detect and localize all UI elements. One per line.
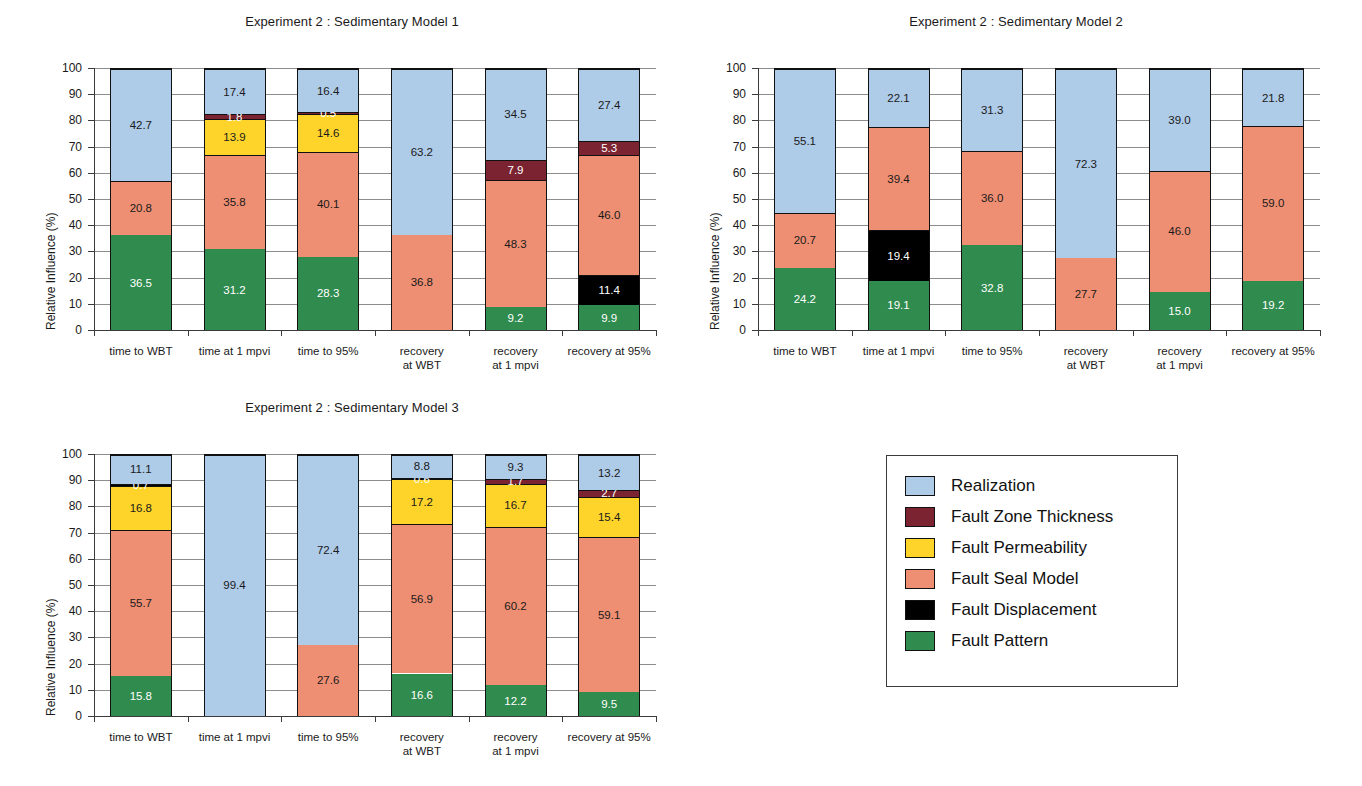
stacked-bar[interactable]: 31.235.813.91.817.4 (204, 68, 266, 330)
bar-segment[interactable]: 16.8 (111, 486, 171, 530)
bar-segment[interactable]: 42.7 (111, 69, 171, 181)
stacked-bar[interactable]: 19.119.439.422.1 (868, 68, 930, 330)
bar-segment[interactable]: 9.3 (486, 455, 546, 479)
bar-segment[interactable]: 28.3 (298, 257, 358, 331)
bar-segment[interactable]: 59.1 (579, 537, 639, 692)
stacked-bar[interactable]: 12.260.216.71.79.3 (485, 454, 547, 716)
stacked-bar[interactable]: 9.911.446.05.327.4 (578, 68, 640, 330)
bar-segment[interactable]: 11.4 (579, 275, 639, 305)
bar-segment[interactable]: 99.4 (205, 455, 265, 715)
bar-segment[interactable]: 22.1 (869, 69, 929, 127)
bar-segment[interactable]: 9.2 (486, 307, 546, 331)
bar-segment[interactable]: 55.7 (111, 530, 171, 676)
gridline (94, 533, 656, 534)
plot-area-model-2: Relative Influence (%)010203040506070809… (686, 14, 1346, 404)
stacked-bar[interactable]: 36.863.2 (391, 68, 453, 330)
chart-panel-model-2: Experiment 2 : Sedimentary Model 2 Relat… (686, 14, 1346, 404)
bar-segment[interactable]: 0.6 (392, 478, 452, 480)
bar-segment[interactable]: 35.8 (205, 155, 265, 249)
bar-segment[interactable]: 11.1 (111, 455, 171, 484)
bar-segment[interactable]: 48.3 (486, 180, 546, 307)
bar-segment[interactable]: 17.4 (205, 69, 265, 115)
bar-segment[interactable]: 39.4 (869, 127, 929, 230)
legend-item[interactable]: Fault Zone Thickness (905, 501, 1159, 532)
bar-segment[interactable]: 46.0 (1150, 171, 1210, 292)
bar-segment[interactable]: 9.9 (579, 305, 639, 331)
bar-segment[interactable]: 19.4 (869, 230, 929, 281)
bar-segment[interactable]: 15.8 (111, 676, 171, 717)
bar-segment[interactable]: 39.0 (1150, 69, 1210, 171)
bar-segment[interactable]: 15.4 (579, 497, 639, 537)
stacked-bar[interactable]: 24.220.755.1 (774, 68, 836, 330)
bar-segment[interactable]: 40.1 (298, 152, 358, 257)
bar-segment[interactable]: 1.7 (486, 479, 546, 483)
bar-segment[interactable]: 32.8 (962, 245, 1022, 331)
stacked-bar[interactable]: 27.772.3 (1055, 68, 1117, 330)
bar-segment[interactable]: 0.7 (111, 484, 171, 486)
bar-segment[interactable]: 21.8 (1243, 69, 1303, 126)
stacked-bar[interactable]: 28.340.114.60.516.4 (297, 68, 359, 330)
bar-segment[interactable]: 16.6 (392, 674, 452, 717)
bar-segment[interactable]: 34.5 (486, 69, 546, 159)
bar-segment[interactable]: 59.0 (1243, 126, 1303, 281)
legend-item[interactable]: Fault Pattern (905, 625, 1159, 656)
stacked-bar[interactable]: 16.656.917.20.68.8 (391, 454, 453, 716)
bar-segment[interactable]: 2.7 (579, 490, 639, 497)
bar-segment[interactable]: 1.8 (205, 114, 265, 119)
bar-segment[interactable]: 36.5 (111, 235, 171, 331)
bar-segment[interactable]: 31.3 (962, 69, 1022, 151)
bar-segment[interactable]: 12.2 (486, 685, 546, 717)
bar-segment[interactable]: 46.0 (579, 155, 639, 276)
bar-segment[interactable]: 56.9 (392, 524, 452, 673)
bar-segment[interactable]: 31.2 (205, 249, 265, 331)
bar-segment-value: 16.4 (317, 86, 339, 97)
bar-segment[interactable]: 7.9 (486, 160, 546, 181)
x-axis-label: recovery at 1 mpvi (463, 730, 569, 758)
bar-segment[interactable]: 5.3 (579, 141, 639, 155)
stacked-bar[interactable]: 32.836.031.3 (961, 68, 1023, 330)
legend-item[interactable]: Fault Displacement (905, 594, 1159, 625)
legend-item[interactable]: Fault Seal Model (905, 563, 1159, 594)
legend-item[interactable]: Realization (905, 470, 1159, 501)
bar-segment[interactable]: 17.2 (392, 479, 452, 524)
bar-segment[interactable]: 0.5 (298, 112, 358, 113)
stacked-bar[interactable]: 9.559.115.42.713.2 (578, 454, 640, 716)
stacked-bar[interactable]: 15.046.039.0 (1149, 68, 1211, 330)
legend-item-label: Fault Displacement (951, 600, 1097, 620)
bar-segment[interactable]: 16.7 (486, 484, 546, 528)
bar-segment-value: 19.2 (1262, 300, 1284, 311)
gridline (758, 120, 1320, 121)
bar-segment-value: 27.4 (598, 100, 620, 111)
bar-segment[interactable]: 15.0 (1150, 292, 1210, 331)
bar-segment[interactable]: 60.2 (486, 527, 546, 685)
stacked-bar[interactable]: 0.599.4 (204, 454, 266, 716)
bar-segment[interactable]: 8.8 (392, 455, 452, 478)
bar-segment[interactable]: 19.2 (1243, 281, 1303, 331)
bar-segment[interactable]: 72.3 (1056, 69, 1116, 258)
stacked-bar[interactable]: 19.259.021.8 (1242, 68, 1304, 330)
bar-segment[interactable]: 13.2 (579, 455, 639, 490)
bar-segment[interactable]: 14.6 (298, 114, 358, 152)
stacked-bar[interactable]: 36.520.842.7 (110, 68, 172, 330)
bar-segment[interactable]: 20.7 (775, 213, 835, 267)
bar-segment[interactable]: 27.4 (579, 69, 639, 141)
bar-segment[interactable]: 16.4 (298, 69, 358, 112)
bar-segment[interactable]: 27.7 (1056, 258, 1116, 331)
bar-segment-value: 15.4 (598, 512, 620, 523)
bar-segment[interactable]: 13.9 (205, 119, 265, 155)
bar-segment[interactable]: 19.1 (869, 281, 929, 331)
bar-segment[interactable]: 36.0 (962, 151, 1022, 245)
bar-segment[interactable]: 24.2 (775, 268, 835, 331)
stacked-bar[interactable]: 15.855.716.80.711.1 (110, 454, 172, 716)
chart-panel-model-1: Experiment 2 : Sedimentary Model 1 Relat… (22, 14, 682, 404)
bar-segment[interactable]: 72.4 (298, 455, 358, 645)
bar-segment[interactable]: 36.8 (392, 235, 452, 331)
bar-segment[interactable]: 63.2 (392, 69, 452, 235)
bar-segment[interactable]: 9.5 (579, 692, 639, 717)
stacked-bar[interactable]: 27.672.4 (297, 454, 359, 716)
bar-segment[interactable]: 55.1 (775, 69, 835, 213)
stacked-bar[interactable]: 9.248.37.934.5 (485, 68, 547, 330)
legend-item[interactable]: Fault Permeability (905, 532, 1159, 563)
bar-segment[interactable]: 20.8 (111, 181, 171, 235)
bar-segment[interactable]: 27.6 (298, 645, 358, 717)
